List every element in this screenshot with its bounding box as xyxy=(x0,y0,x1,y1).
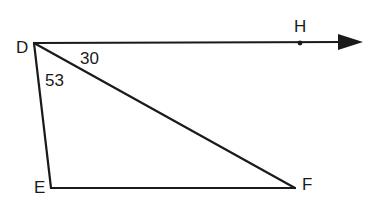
geometry-diagram: D H E F 30 53 xyxy=(0,0,390,215)
ray-arrowhead-icon xyxy=(338,34,363,50)
angle-label-hdf: 30 xyxy=(80,49,99,68)
segment-df xyxy=(34,43,295,188)
point-label-h: H xyxy=(294,17,306,36)
point-label-f: F xyxy=(302,175,312,194)
segment-de xyxy=(34,43,51,188)
point-label-d: D xyxy=(16,38,28,57)
angle-label-fde: 53 xyxy=(45,71,64,90)
point-label-e: E xyxy=(34,178,45,197)
point-h-dot xyxy=(298,41,303,46)
